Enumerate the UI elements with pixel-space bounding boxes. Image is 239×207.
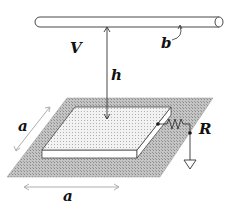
label-height: h	[111, 66, 122, 84]
plate-front-side	[42, 150, 137, 158]
radius-pointer	[172, 26, 181, 40]
label-potential: V	[70, 39, 83, 57]
label-side-width: a	[63, 187, 73, 205]
diagram-canvas: V b h R a a	[0, 0, 239, 207]
wire	[35, 17, 223, 27]
label-resistance: R	[198, 120, 211, 138]
label-side-depth: a	[18, 117, 28, 135]
ground-symbol-icon	[184, 160, 196, 169]
label-wire-radius: b	[161, 34, 172, 52]
